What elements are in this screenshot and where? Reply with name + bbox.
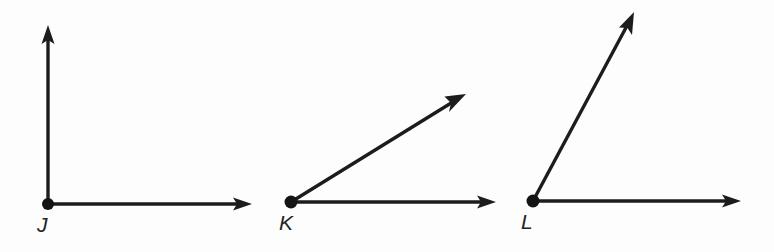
angle-j-vertex-label: J xyxy=(37,214,48,235)
angle-k-diagonal-ray xyxy=(291,100,456,202)
angle-k-diagonal-arrowhead xyxy=(445,94,467,112)
angle-l-vertex-label: L xyxy=(521,211,533,232)
angle-j xyxy=(42,25,253,211)
angle-j-vertex-dot xyxy=(42,198,54,210)
angle-k-vertex-dot xyxy=(285,196,298,209)
angle-l xyxy=(527,12,742,208)
angle-l-diagonal-arrowhead xyxy=(619,12,634,35)
angle-k xyxy=(285,94,497,209)
angles-drawing xyxy=(0,0,774,252)
angle-k-vertex-label: K xyxy=(279,212,293,233)
angles-figure: J K L xyxy=(0,0,774,252)
angle-l-diagonal-ray xyxy=(533,22,629,201)
angle-l-vertex-dot xyxy=(527,195,540,208)
